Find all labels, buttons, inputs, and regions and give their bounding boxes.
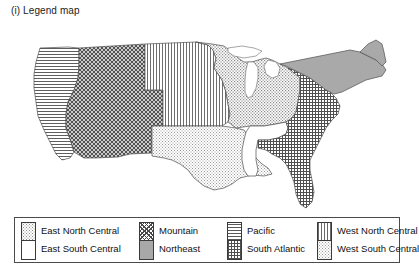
legend-swatch-stack-2 [139,222,154,260]
map-container [0,18,415,214]
figure-caption: (i) Legend map [11,5,80,16]
legend-swatch-northeast [140,241,153,259]
legend-labels-1: East North Central East South Central [41,222,121,258]
legend-swatch-pacific [228,223,241,241]
legend-label-east-south-central: East South Central [41,240,121,258]
legend-label-west-south-central: West South Central [337,240,419,258]
united-states-map [0,18,415,214]
legend-labels-4: West North Central West South Central [337,222,419,258]
legend-swatch-stack-4 [317,222,332,260]
legend-swatch-east-north-central [22,223,35,241]
legend-labels-2: Mountain Northeast [159,222,200,258]
legend-labels-3: Pacific South Atlantic [247,222,305,258]
legend-swatch-south-atlantic [228,241,241,259]
legend-column-2: Mountain Northeast [139,222,227,260]
legend-label-east-north-central: East North Central [41,222,121,240]
map-legend: East North Central East South Central Mo… [14,217,400,263]
legend-label-south-atlantic: South Atlantic [247,240,305,258]
legend-column-3: Pacific South Atlantic [227,222,317,260]
legend-label-mountain: Mountain [159,222,200,240]
legend-column-1: East North Central East South Central [21,222,139,260]
legend-swatch-west-south-central [318,241,331,259]
legend-swatch-stack-1 [21,222,36,260]
legend-swatch-west-north-central [318,223,331,241]
legend-grid: East North Central East South Central Mo… [21,222,395,260]
legend-label-west-north-central: West North Central [337,222,419,240]
legend-swatch-stack-3 [227,222,242,260]
legend-label-pacific: Pacific [247,222,305,240]
legend-label-northeast: Northeast [159,240,200,258]
legend-swatch-mountain [140,223,153,241]
legend-column-4: West North Central West South Central [317,222,391,260]
legend-swatch-east-south-central [22,241,35,259]
